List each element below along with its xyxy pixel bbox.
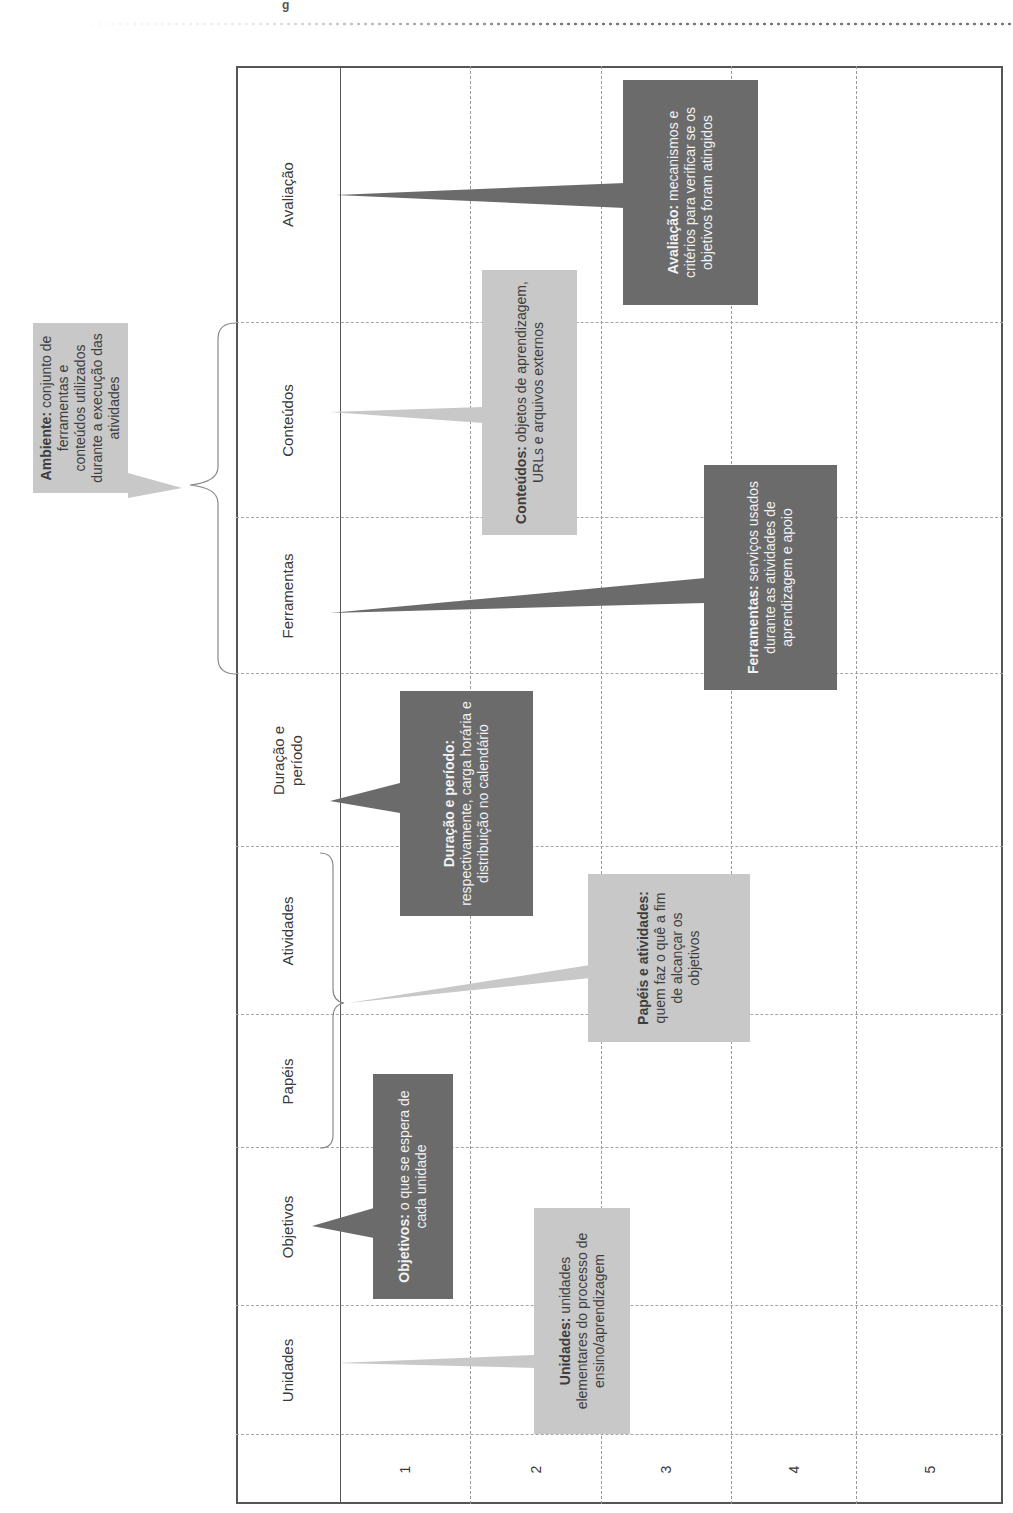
callout-ambiente-term: Ambiente: — [38, 412, 54, 480]
callout-ferramentas: Ferramentas: serviços usados durante as … — [704, 465, 837, 690]
callout-duracao-term: Duração e período: — [441, 740, 457, 868]
ferramentas-pointer-icon — [330, 578, 705, 613]
callout-ambiente: Ambiente: conjunto de ferramentas e cont… — [33, 323, 128, 493]
rotated-figure: Unidades Objetivos Papéis Atividades Dur… — [0, 0, 1013, 1513]
callout-papeis-atividades-term: Papéis e atividades: — [635, 891, 651, 1025]
callout-unidades: Unidades: unidades elementares do proces… — [534, 1208, 630, 1434]
papeis-atividades-pointer-icon — [348, 965, 590, 1003]
objetivos-pointer-icon — [312, 1208, 374, 1238]
avaliacao-pointer-icon — [336, 183, 625, 208]
callout-avaliacao-term: Avaliação: — [665, 205, 681, 275]
ambiente-pointer-icon — [128, 473, 182, 498]
callout-objetivos-text: o que se espera de cada unidade — [396, 1090, 429, 1228]
callout-papeis-atividades-text: quem faz o quê a fim de alcançar os obje… — [652, 893, 702, 1024]
callout-objetivos: Objetivos: o que se espera de cada unida… — [373, 1074, 453, 1299]
callout-objetivos-term: Objetivos: — [396, 1214, 412, 1282]
callout-duracao-text: respectivamente, carga horária e distrib… — [458, 701, 491, 906]
unidades-pointer-icon — [336, 1355, 535, 1368]
papeis-atividades-brace-icon — [320, 853, 344, 1148]
conteudos-pointer-icon — [330, 407, 483, 423]
callout-duracao: Duração e período: respectivamente, carg… — [400, 691, 533, 916]
ambiente-brace-icon — [190, 323, 236, 674]
callout-unidades-term: Unidades: — [557, 1318, 573, 1386]
callout-ferramentas-term: Ferramentas: — [745, 585, 761, 674]
callout-conteudos-term: Conteúdos: — [513, 446, 529, 524]
callout-conteudos: Conteúdos: objetos de aprendizagem, URLs… — [482, 270, 577, 535]
duracao-pointer-icon — [330, 783, 400, 813]
callout-avaliacao: Avaliação: mecanismos e critérios para v… — [623, 80, 758, 305]
callout-papeis-atividades: Papéis e atividades: quem faz o quê a fi… — [588, 874, 750, 1042]
